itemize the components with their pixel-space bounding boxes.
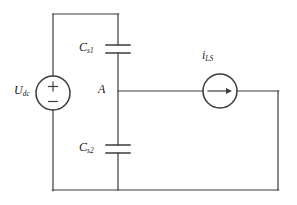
capacitor-cs1-label-main: C [79, 40, 87, 54]
circuit-diagram: Udc Cs1 Cs2 A iLS [0, 0, 297, 205]
capacitor-cs1-symbol [106, 45, 130, 53]
capacitor-cs2-label-main: C [79, 140, 87, 154]
capacitor-cs2-symbol [106, 145, 130, 153]
current-arrow-icon [208, 88, 232, 94]
dc-voltage-source-symbol [36, 76, 70, 110]
voltage-source-label: Udc [14, 84, 30, 96]
capacitor-cs1-label: Cs1 [79, 41, 94, 53]
current-source-label: iLS [202, 49, 213, 61]
capacitor-cs2-label: Cs2 [79, 141, 94, 153]
capacitor-cs2-label-sub: s2 [87, 146, 94, 155]
schematic-canvas [0, 0, 297, 205]
current-source-label-sub: LS [205, 54, 213, 63]
voltage-source-label-sub: dc [23, 89, 30, 98]
node-a-label: A [98, 83, 105, 95]
plus-sign-icon [49, 82, 58, 91]
voltage-source-label-main: U [14, 83, 23, 97]
capacitor-cs1-label-sub: s1 [87, 46, 94, 55]
